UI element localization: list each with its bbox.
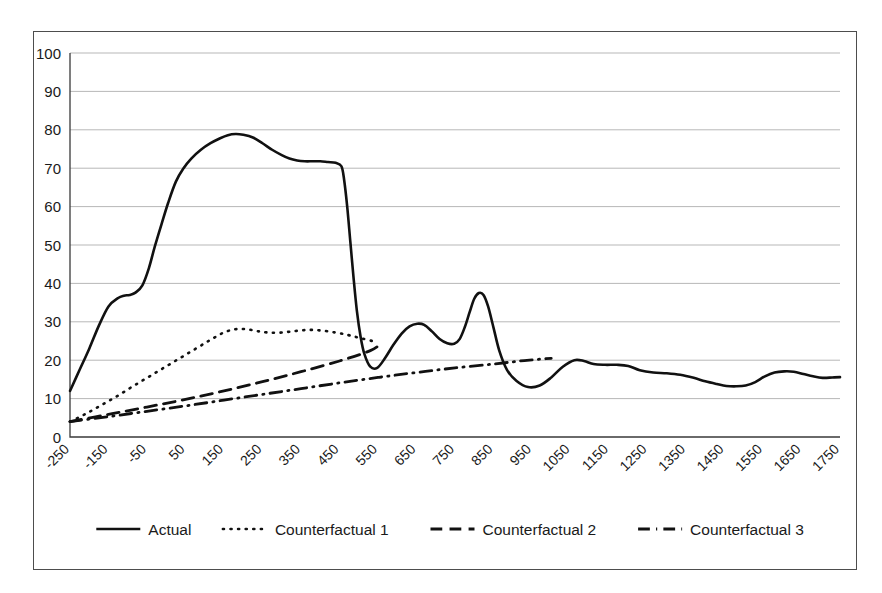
- legend-label-actual: Actual: [148, 521, 191, 538]
- x-tick-label: 1350: [655, 441, 688, 474]
- x-tick-label: 1550: [732, 441, 765, 474]
- y-tick-label: 80: [44, 121, 61, 138]
- chart-frame: 0102030405060708090100-250-150-505015025…: [33, 31, 857, 570]
- x-tick-label: 850: [468, 441, 496, 469]
- x-tick-label: -150: [79, 441, 110, 472]
- legend-label-counterfactual-3: Counterfactual 3: [690, 521, 804, 538]
- y-tick-label: 100: [36, 45, 61, 62]
- line-chart: 0102030405060708090100-250-150-505015025…: [34, 32, 854, 567]
- y-tick-label: 90: [44, 83, 61, 100]
- y-tick-label: 50: [44, 237, 61, 254]
- x-tick-label: 1750: [809, 441, 842, 474]
- x-tick-label: 1050: [539, 441, 572, 474]
- x-tick-label: 1450: [693, 441, 726, 474]
- y-tick-label: 20: [44, 352, 61, 369]
- y-tick-label: 70: [44, 160, 61, 177]
- series-line-counterfactual-3: [70, 358, 551, 421]
- x-tick-label: -250: [41, 441, 72, 472]
- legend-label-counterfactual-2: Counterfactual 2: [483, 521, 597, 538]
- x-tick-label: 750: [429, 441, 457, 469]
- chart-figure: 0102030405060708090100-250-150-505015025…: [0, 0, 882, 593]
- x-tick-label: 550: [352, 441, 380, 469]
- y-tick-label: 60: [44, 198, 61, 215]
- series-line-counterfactual-1: [70, 329, 372, 422]
- x-tick-label: 650: [391, 441, 419, 469]
- y-tick-label: 10: [44, 390, 61, 407]
- x-tick-label: 1150: [579, 441, 612, 474]
- x-tick-label: 1650: [770, 441, 803, 474]
- x-tick-label: 1250: [616, 441, 649, 474]
- series-line-actual: [70, 134, 840, 391]
- x-tick-label: 250: [237, 441, 265, 469]
- x-tick-label: 950: [506, 441, 534, 469]
- x-tick-label: 150: [198, 441, 226, 469]
- x-tick-label: 350: [275, 441, 303, 469]
- y-tick-label: 40: [44, 275, 61, 292]
- x-tick-label: 450: [314, 441, 342, 469]
- x-tick-label: 50: [165, 441, 187, 463]
- x-tick-label: -50: [123, 441, 149, 467]
- series-line-counterfactual-2: [70, 343, 382, 422]
- legend-label-counterfactual-1: Counterfactual 1: [275, 521, 389, 538]
- y-tick-label: 30: [44, 313, 61, 330]
